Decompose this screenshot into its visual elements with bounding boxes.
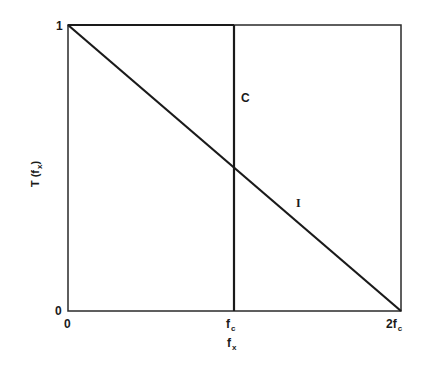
x-tick-2fc: 2fc xyxy=(386,318,402,330)
curve-label-c: C xyxy=(241,92,250,104)
x-tick-fc-main: f xyxy=(226,317,230,331)
y-axis-label-main: T (f xyxy=(29,170,41,187)
y-axis-label-sub: x xyxy=(35,165,44,169)
x-tick-0: 0 xyxy=(64,318,71,330)
y-tick-0: 0 xyxy=(55,305,62,317)
x-axis-label: fx xyxy=(227,337,236,349)
x-tick-fc: fc xyxy=(226,318,235,330)
y-tick-1: 1 xyxy=(56,20,63,32)
x-axis-label-main: f xyxy=(227,336,231,350)
x-tick-2fc-main: 2f xyxy=(386,317,397,331)
x-tick-fc-sub: c xyxy=(231,324,235,333)
x-tick-2fc-sub: c xyxy=(398,324,402,333)
curve-label-i: I xyxy=(296,197,301,209)
y-axis-label: T (fx) xyxy=(29,161,41,187)
x-axis-label-sub: x xyxy=(232,343,236,352)
